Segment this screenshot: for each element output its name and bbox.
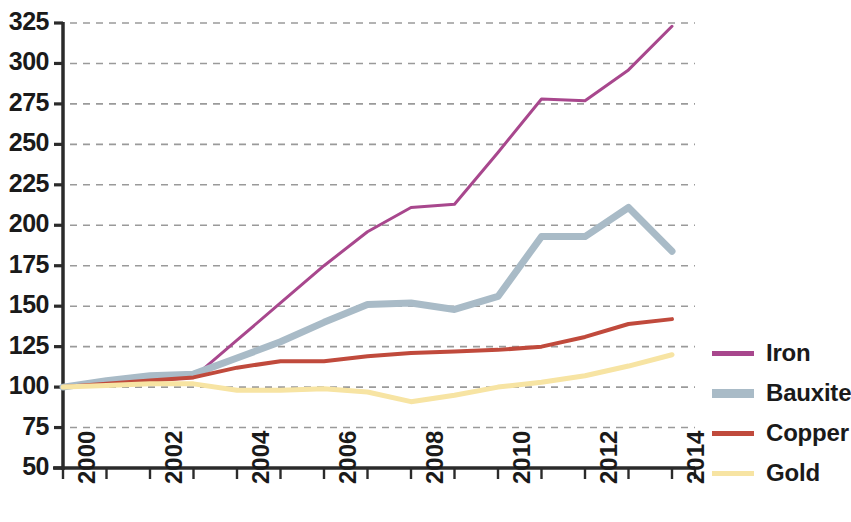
y-tick-label: 150 <box>9 290 49 319</box>
legend-label: Gold <box>766 459 820 487</box>
y-tick-label: 50 <box>22 452 49 481</box>
y-tick-label: 325 <box>9 7 49 36</box>
legend-label: Copper <box>766 419 849 447</box>
legend-item-gold[interactable]: Gold <box>712 458 820 488</box>
x-tick-label: 2004 <box>247 431 275 484</box>
x-tick-label: 2008 <box>421 431 449 484</box>
x-tick-label: 2012 <box>595 431 623 484</box>
y-tick-label: 200 <box>9 209 49 238</box>
legend-item-copper[interactable]: Copper <box>712 418 849 448</box>
y-tick-label: 175 <box>9 250 49 279</box>
x-tick-label: 2000 <box>73 431 101 484</box>
legend-swatch-icon <box>712 351 754 356</box>
legend-label: Iron <box>766 339 811 367</box>
legend-label: Bauxite <box>766 379 851 407</box>
legend-item-iron[interactable]: Iron <box>712 338 811 368</box>
series-line-iron <box>63 26 672 387</box>
x-tick-label: 2006 <box>334 431 362 484</box>
series-line-bauxite <box>63 207 672 387</box>
x-tick-label: 2010 <box>508 431 536 484</box>
x-tick-label: 2002 <box>160 431 188 484</box>
y-tick-label: 300 <box>9 47 49 76</box>
y-tick-label: 225 <box>9 169 49 198</box>
legend-swatch-icon <box>712 471 754 476</box>
y-tick-label: 275 <box>9 88 49 117</box>
y-tick-label: 125 <box>9 331 49 360</box>
y-tick-label: 100 <box>9 371 49 400</box>
legend-swatch-icon <box>712 431 754 436</box>
y-tick-label: 75 <box>22 412 49 441</box>
legend-item-bauxite[interactable]: Bauxite <box>712 378 851 408</box>
x-tick-label: 2014 <box>682 431 710 484</box>
legend-swatch-icon <box>712 389 754 398</box>
y-tick-label: 250 <box>9 128 49 157</box>
